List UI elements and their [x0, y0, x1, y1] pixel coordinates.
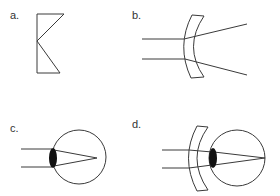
panel-c: c. — [10, 122, 106, 184]
corrective-concave-lens — [189, 126, 209, 191]
converging-ray-upper — [54, 150, 97, 158]
panel-b: b. — [132, 9, 247, 78]
eye-lens — [49, 148, 57, 168]
diverging-ray-lower — [185, 59, 247, 75]
diverged-ray-lower — [189, 165, 212, 168]
focused-ray-upper — [214, 152, 265, 158]
converging-ray-lower — [54, 158, 97, 166]
panel-label-b: b. — [132, 9, 141, 21]
diverging-ray-upper — [184, 24, 247, 39]
panel-a: a. — [10, 9, 64, 73]
eyeball — [209, 130, 265, 186]
concave-lens-shape — [37, 14, 64, 73]
panel-label-d: d. — [132, 118, 141, 130]
panel-d: d. — [132, 118, 265, 191]
eye-lens — [209, 148, 217, 168]
focused-ray-lower — [214, 158, 265, 165]
diagram-canvas: a. b. c. d. — [0, 0, 280, 196]
diverged-ray-upper — [189, 150, 212, 152]
eyeball — [52, 130, 106, 184]
concave-lens — [184, 15, 204, 78]
panel-label-a: a. — [10, 9, 19, 21]
panel-label-c: c. — [10, 122, 19, 134]
